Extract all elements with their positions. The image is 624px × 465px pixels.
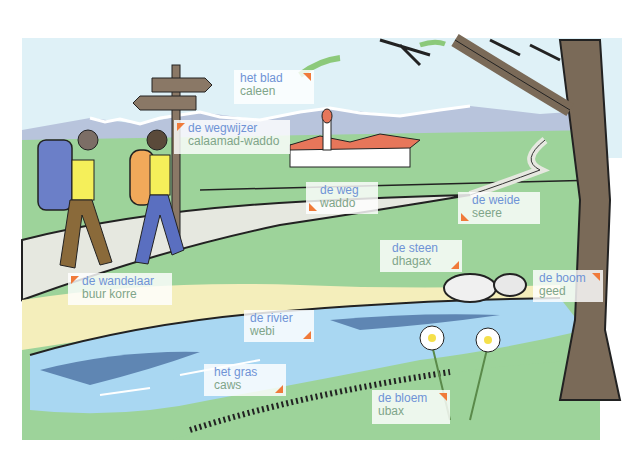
somali-term: geed xyxy=(539,285,597,298)
somali-term: caleen xyxy=(240,85,308,98)
somali-term: calaamad-waddo xyxy=(188,135,284,148)
label-hiker: de wandelaar buur korre xyxy=(68,273,172,305)
marker-icon xyxy=(439,393,447,401)
label-stone: de steen dhagax xyxy=(380,240,462,272)
somali-term: caws xyxy=(214,379,280,392)
marker-icon xyxy=(71,276,79,284)
marker-icon xyxy=(303,331,311,339)
marker-icon xyxy=(275,385,283,393)
somali-term: ubax xyxy=(378,405,444,418)
label-signpost: de wegwijzer calaamad-waddo xyxy=(174,120,290,154)
marker-icon xyxy=(177,123,185,131)
somali-term: webi xyxy=(250,325,308,338)
marker-icon xyxy=(592,273,600,281)
label-leaf: het blad caleen xyxy=(234,70,314,104)
label-grass: het gras caws xyxy=(204,364,286,396)
somali-term: buur korre xyxy=(82,288,166,301)
marker-icon xyxy=(451,261,459,269)
marker-icon xyxy=(309,203,317,211)
label-river: de rivier webi xyxy=(244,310,314,342)
label-flower: de bloem ubax xyxy=(372,390,450,424)
label-meadow: de weide seere xyxy=(458,192,540,224)
somali-term: seere xyxy=(472,207,534,220)
marker-icon xyxy=(303,73,311,81)
label-road: de weg waddo xyxy=(306,182,378,214)
somali-term: waddo xyxy=(320,197,372,210)
stones xyxy=(444,274,496,302)
somali-term: dhagax xyxy=(392,255,456,268)
label-tree: de boom geed xyxy=(533,270,603,302)
marker-icon xyxy=(461,213,469,221)
